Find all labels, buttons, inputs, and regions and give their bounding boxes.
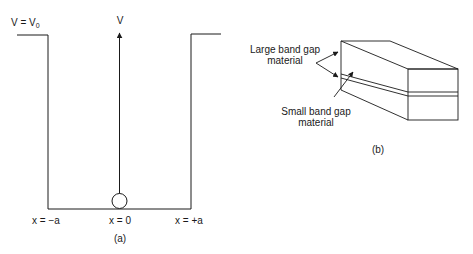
v0-label-text: V = V [11, 17, 36, 28]
pointer-arrows [316, 52, 353, 97]
caption-b: (b) [372, 144, 384, 155]
v0-label: V = V0 [11, 17, 40, 31]
diagram-canvas [0, 0, 473, 254]
heterostructure-block [341, 41, 458, 120]
small-gap-label: Small band gap material [281, 106, 351, 128]
small-gap-label-line1: Small band gap [281, 106, 351, 117]
x-left-label: x = −a [32, 215, 60, 226]
large-gap-label-line2: material [250, 55, 320, 66]
x-center-label: x = 0 [109, 215, 131, 226]
small-gap-label-line2: material [281, 117, 351, 128]
v0-subscript: 0 [36, 22, 40, 29]
particle-circle [112, 194, 127, 209]
caption-a: (a) [114, 233, 126, 244]
large-gap-label-line1: Large band gap [250, 44, 320, 55]
x-right-label: x = +a [175, 215, 203, 226]
large-gap-label: Large band gap material [250, 44, 320, 66]
v-axis-label: V [117, 15, 124, 26]
